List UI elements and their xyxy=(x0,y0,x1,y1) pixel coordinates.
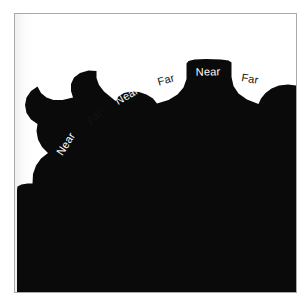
black-silhouette-shape xyxy=(17,59,296,292)
silhouette-diagram xyxy=(0,0,308,305)
figure-container: Near Far Near Far Near Far xyxy=(0,0,308,305)
label-near-3: Near xyxy=(196,66,221,77)
